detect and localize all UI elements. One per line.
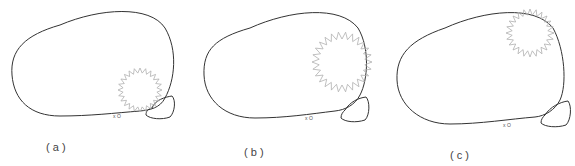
caption-b: ( b ) — [244, 146, 264, 158]
marker-label: x O — [305, 115, 313, 121]
sun-region — [118, 68, 162, 112]
caption-c: ( c ) — [450, 149, 469, 161]
caption-a: ( a ) — [46, 141, 66, 153]
side-lobe-outline — [541, 101, 570, 127]
sun-region — [506, 9, 554, 57]
side-lobe-outline — [341, 97, 369, 122]
sun-region — [312, 32, 372, 92]
marker-label: x O — [503, 122, 511, 128]
main-blob-outline — [12, 12, 174, 117]
panel-c: x O ( c ) — [397, 9, 571, 161]
main-blob-outline — [204, 13, 367, 118]
side-lobe-outline — [146, 96, 174, 119]
figure-canvas: x O ( a ) x O ( b ) x O ( c ) — [0, 0, 575, 166]
panel-a: x O ( a ) — [12, 12, 175, 154]
panel-b: x O ( b ) — [204, 13, 372, 158]
main-blob-outline — [397, 13, 564, 124]
marker-label: x O — [113, 113, 121, 119]
